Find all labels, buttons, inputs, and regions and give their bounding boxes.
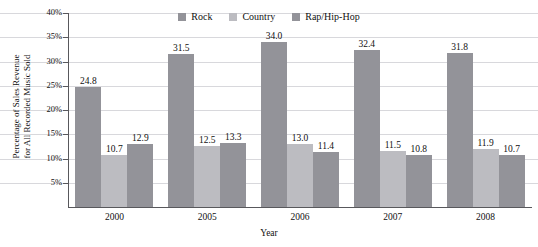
y-axis-title: Percentage of Sales Revenuefor All Recor… xyxy=(11,12,32,202)
y-axis-title-line2: for All Recorded Music Sold xyxy=(21,55,31,159)
legend-swatch xyxy=(292,13,300,21)
bar-fill xyxy=(380,151,406,207)
bar-fill xyxy=(499,155,525,207)
bar-fill xyxy=(287,144,313,207)
y-axis-tick-label: 35% xyxy=(28,32,62,41)
legend-label: Rap/Hip-Hop xyxy=(305,11,359,22)
bar-value-label: 11.9 xyxy=(477,138,493,148)
y-axis-tick-label: 25% xyxy=(28,81,62,90)
bar: 12.9 xyxy=(127,13,153,207)
bar-group: 31.811.910.7 xyxy=(439,13,532,207)
bar-fill xyxy=(168,54,194,207)
bar: 13.0 xyxy=(287,13,313,207)
bar-fill xyxy=(447,53,473,207)
bar: 13.3 xyxy=(220,13,246,207)
bar: 31.8 xyxy=(447,13,473,207)
bar-value-label: 34.0 xyxy=(266,31,283,41)
bar-fill xyxy=(313,152,339,207)
bar-chart: 5%10%15%20%25%30%35%40% Percentage of Sa… xyxy=(0,0,538,247)
legend-item: Country xyxy=(229,11,275,22)
x-axis-tick-label: 2007 xyxy=(348,212,438,222)
bar-fill xyxy=(127,144,153,207)
bar: 34.0 xyxy=(261,13,287,207)
bar: 24.8 xyxy=(75,13,101,207)
legend: RockCountryRap/Hip-Hop xyxy=(0,11,538,22)
bar-value-label: 32.4 xyxy=(358,39,375,49)
x-axis-title: Year xyxy=(0,228,538,238)
bar: 12.5 xyxy=(194,13,220,207)
bar-value-label: 10.8 xyxy=(410,144,427,154)
y-axis-title-line1: Percentage of Sales Revenue xyxy=(11,54,21,158)
bar-group: 24.810.712.9 xyxy=(68,13,161,207)
bar: 11.9 xyxy=(473,13,499,207)
y-axis-tick-label: 10% xyxy=(28,154,62,163)
bar-fill xyxy=(261,42,287,207)
legend-swatch xyxy=(178,13,186,21)
legend-item: Rock xyxy=(178,11,212,22)
bar-value-label: 24.8 xyxy=(80,76,97,86)
bar-value-label: 11.4 xyxy=(318,141,334,151)
bar-group: 34.013.011.4 xyxy=(254,13,347,207)
x-axis-tick-label: 2008 xyxy=(441,212,531,222)
y-axis-tick-label: 5% xyxy=(28,178,62,187)
legend-label: Country xyxy=(242,11,275,22)
bar: 32.4 xyxy=(354,13,380,207)
bar-value-label: 31.8 xyxy=(451,42,468,52)
legend-swatch xyxy=(229,13,237,21)
bar: 10.7 xyxy=(499,13,525,207)
bar: 11.5 xyxy=(380,13,406,207)
bar: 10.7 xyxy=(101,13,127,207)
bar-fill xyxy=(354,50,380,207)
bar-value-label: 10.7 xyxy=(503,144,520,154)
legend-item: Rap/Hip-Hop xyxy=(292,11,359,22)
y-axis-tick-label: 30% xyxy=(28,57,62,66)
bar-fill xyxy=(194,146,220,207)
x-axis-tick-label: 2000 xyxy=(69,212,159,222)
bar: 10.8 xyxy=(406,13,432,207)
bar-value-label: 12.9 xyxy=(132,133,149,143)
bar-value-label: 13.3 xyxy=(225,132,242,142)
x-axis-tick-label: 2006 xyxy=(255,212,345,222)
bar-fill xyxy=(101,155,127,207)
bar: 31.5 xyxy=(168,13,194,207)
legend-label: Rock xyxy=(191,11,212,22)
bar-value-label: 12.5 xyxy=(199,135,216,145)
bar-value-label: 31.5 xyxy=(173,43,190,53)
bar-value-label: 10.7 xyxy=(106,144,123,154)
bar-fill xyxy=(220,143,246,208)
bar-fill xyxy=(473,149,499,207)
bar-group: 31.512.513.3 xyxy=(161,13,254,207)
bar-value-label: 13.0 xyxy=(292,133,309,143)
y-axis-tick-label: 15% xyxy=(28,129,62,138)
y-axis-tick-label: 20% xyxy=(28,105,62,114)
bar-group: 32.411.510.8 xyxy=(346,13,439,207)
plot-area: 24.810.712.931.512.513.334.013.011.432.4… xyxy=(68,13,532,207)
bar-fill xyxy=(75,87,101,207)
x-axis-line xyxy=(68,207,532,208)
x-axis-tick-label: 2005 xyxy=(162,212,252,222)
bar: 11.4 xyxy=(313,13,339,207)
bar-fill xyxy=(406,155,432,207)
bar-value-label: 11.5 xyxy=(385,140,401,150)
